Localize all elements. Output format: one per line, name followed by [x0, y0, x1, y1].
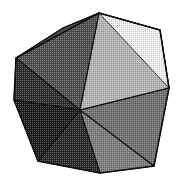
figure-root	[0, 0, 185, 186]
polyhedron-figure	[0, 0, 185, 186]
